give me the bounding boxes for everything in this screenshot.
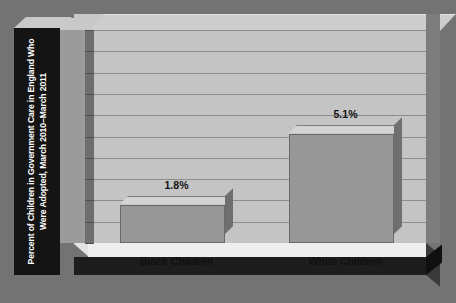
category-label: White Children — [308, 255, 382, 267]
y-axis-tick-mark — [85, 222, 94, 223]
bar-side-face — [225, 188, 233, 234]
plot-wall-top-bevel — [88, 14, 456, 31]
bar-top-face — [289, 125, 402, 133]
y-axis-tick-mark — [85, 243, 94, 244]
category-label: Black Children — [140, 255, 214, 267]
y-axis-3d-edge — [85, 30, 94, 243]
gridline — [88, 94, 426, 95]
y-axis-tick-mark — [85, 200, 94, 201]
plot-right-side-panel — [426, 14, 440, 243]
y-axis-tick-mark — [85, 94, 94, 95]
bar-value-label: 5.1% — [334, 108, 358, 120]
gridline — [88, 115, 426, 116]
y-axis-tick-mark — [85, 30, 94, 31]
bar-chart: 109876543210 Percent of Children in Gove… — [0, 0, 456, 303]
y-axis-tick-mark — [85, 51, 94, 52]
gridline — [88, 51, 426, 52]
bar-side-face — [394, 118, 402, 234]
y-axis-tick-mark — [85, 158, 94, 159]
y-axis-tick-mark — [85, 73, 94, 74]
bar-white-children[interactable] — [289, 134, 394, 243]
y-axis-tick-mark — [85, 115, 94, 116]
y-axis-tick-mark — [85, 179, 94, 180]
bar-value-label: 1.8% — [165, 179, 189, 191]
bar-top-face — [120, 196, 233, 204]
category-axis-labels: Black ChildrenWhite Children — [88, 255, 426, 275]
gridline — [88, 73, 426, 74]
y-axis-tick-mark — [85, 137, 94, 138]
gridline — [88, 30, 426, 31]
bar-black-children[interactable] — [120, 205, 225, 243]
y-axis-title: Percent of Children in Government Care i… — [14, 28, 60, 275]
